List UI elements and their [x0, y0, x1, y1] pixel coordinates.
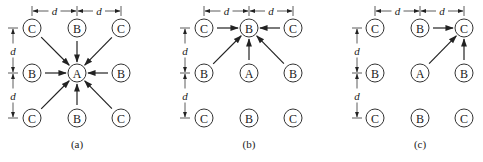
- lattice-nodes: CBCBABCBC: [195, 19, 302, 127]
- interaction-arrow-icon: [85, 37, 112, 65]
- node-label: C: [460, 112, 468, 126]
- lattice-node-c: C: [284, 19, 302, 37]
- node-label: C: [289, 112, 297, 126]
- interaction-arrow-icon: [257, 36, 284, 64]
- node-label: C: [289, 22, 297, 36]
- node-label: C: [200, 112, 208, 126]
- spacing-label: d: [439, 5, 445, 17]
- lattice-node-b: B: [411, 19, 429, 37]
- node-label: C: [117, 112, 125, 126]
- spacing-label: d: [182, 45, 188, 57]
- node-label: B: [371, 67, 379, 81]
- lattice-node-c: C: [455, 109, 473, 127]
- lattice-node-b: B: [112, 64, 130, 82]
- node-label: B: [416, 22, 424, 36]
- node-label: B: [245, 22, 253, 36]
- spacing-label: d: [52, 5, 58, 17]
- panel-caption: (a): [71, 138, 84, 151]
- lattice-node-b: B: [23, 64, 41, 82]
- interaction-arrow-icon: [85, 81, 112, 109]
- spacing-label: d: [10, 45, 16, 57]
- node-label: A: [416, 67, 425, 81]
- interaction-arrow-icon: [213, 36, 241, 64]
- lattice-node-a: A: [240, 64, 258, 82]
- node-label: C: [200, 22, 208, 36]
- spacing-label: d: [268, 5, 274, 17]
- lattice-nodes: CBCBABCBC: [366, 19, 473, 127]
- vertical-dimension: dd: [352, 28, 362, 118]
- node-label: B: [460, 67, 468, 81]
- lattice-node-b: B: [240, 19, 258, 37]
- lattice-node-c: C: [23, 19, 41, 37]
- node-label: C: [117, 22, 125, 36]
- panel-c: ddddCBCBABCBC(c): [352, 5, 473, 151]
- node-label: A: [73, 67, 82, 81]
- lattice-node-b: B: [240, 109, 258, 127]
- node-label: B: [289, 67, 297, 81]
- interaction-arrow-icon: [429, 36, 456, 64]
- spacing-label: d: [354, 90, 360, 102]
- neighbor-interaction-diagram: ddddCBCBABCBC(a)ddddCBCBABCBC(b)ddddCBCB…: [0, 0, 483, 162]
- lattice-node-c: C: [23, 109, 41, 127]
- node-label: C: [371, 22, 379, 36]
- lattice-node-c: C: [112, 109, 130, 127]
- vertical-dimension: dd: [180, 28, 190, 118]
- panel-a: ddddCBCBABCBC(a): [8, 5, 130, 151]
- spacing-label: d: [10, 90, 16, 102]
- node-label: B: [245, 112, 253, 126]
- lattice-node-c: C: [284, 109, 302, 127]
- node-label: B: [73, 22, 81, 36]
- spacing-label: d: [182, 90, 188, 102]
- lattice-node-b: B: [411, 109, 429, 127]
- node-label: A: [245, 67, 254, 81]
- lattice-node-c: C: [195, 109, 213, 127]
- node-label: C: [371, 112, 379, 126]
- spacing-label: d: [96, 5, 102, 17]
- spacing-label: d: [395, 5, 401, 17]
- lattice-node-b: B: [68, 109, 86, 127]
- lattice-node-b: B: [366, 64, 384, 82]
- interaction-arrow-icon: [41, 37, 69, 65]
- lattice-nodes: CBCBABCBC: [23, 19, 130, 127]
- lattice-node-b: B: [455, 64, 473, 82]
- panel-caption: (b): [243, 138, 256, 151]
- panels-group: ddddCBCBABCBC(a)ddddCBCBABCBC(b)ddddCBCB…: [8, 5, 473, 151]
- lattice-node-a: A: [411, 64, 429, 82]
- vertical-dimension: dd: [8, 28, 18, 118]
- node-label: C: [28, 112, 36, 126]
- node-label: B: [416, 112, 424, 126]
- spacing-label: d: [224, 5, 230, 17]
- lattice-node-c: C: [455, 19, 473, 37]
- lattice-node-b: B: [68, 19, 86, 37]
- lattice-node-c: C: [195, 19, 213, 37]
- node-label: C: [460, 22, 468, 36]
- interaction-arrow-icon: [41, 81, 69, 109]
- spacing-label: d: [354, 45, 360, 57]
- node-label: B: [117, 67, 125, 81]
- lattice-node-b: B: [284, 64, 302, 82]
- node-label: C: [28, 22, 36, 36]
- lattice-node-c: C: [112, 19, 130, 37]
- horizontal-dimension: dd: [375, 5, 464, 17]
- panel-caption: (c): [414, 138, 427, 151]
- node-label: B: [200, 67, 208, 81]
- node-label: B: [28, 67, 36, 81]
- horizontal-dimension: dd: [32, 5, 121, 17]
- horizontal-dimension: dd: [204, 5, 293, 17]
- node-label: B: [73, 112, 81, 126]
- lattice-node-c: C: [366, 19, 384, 37]
- lattice-node-b: B: [195, 64, 213, 82]
- panel-b: ddddCBCBABCBC(b): [180, 5, 302, 151]
- lattice-node-c: C: [366, 109, 384, 127]
- lattice-node-a: A: [68, 64, 86, 82]
